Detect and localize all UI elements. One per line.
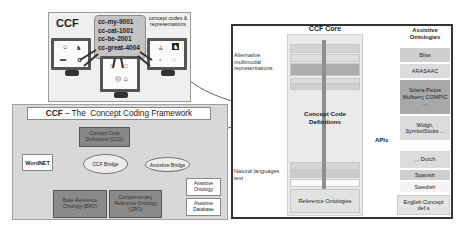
alt-representations-label: Alternative multimodal representations <box>234 52 286 72</box>
assistive-ontology-box: Assistive Ontology <box>186 178 221 196</box>
framework-title-text: – The Concept Coding Framework <box>63 109 193 118</box>
framework-title-acronym: CCF <box>46 109 63 118</box>
ontology-arasaac: ARASAAC <box>400 64 450 79</box>
wordnet-box: WordNET <box>22 154 53 171</box>
reference-ontologies-box: Reference Ontologies <box>290 189 360 213</box>
ccd-box: Concept Code Definitions (CCD) <box>79 127 130 147</box>
cro-box: Complementary Reference Ontology (CRO) <box>109 190 162 218</box>
assistive-database-box: Assistive Database <box>186 198 221 216</box>
language-dutch: ... Dutch <box>400 151 450 169</box>
language-swedish: Swedish <box>400 182 450 193</box>
framework-title: CCF – The Concept Coding Framework <box>27 107 211 120</box>
natural-languages-label: Natural languages text <box>234 168 284 181</box>
ontology-bliss: Bliss <box>400 48 450 63</box>
language-english-concept-defs: English Concept def.s <box>397 195 450 215</box>
language-spanish: Spanish <box>400 170 450 181</box>
bro-box: Base Reference Ontology (BRO) <box>53 190 107 218</box>
concept-code-definitions-label: Concept Code Definitions <box>300 110 350 125</box>
ontology-widgit-symbolsticks: Widgit, SymbolSticks ... <box>400 116 450 141</box>
assistive-ontologies-title: Assistive Ontologies <box>400 27 450 41</box>
ccf-core-title: CCF Core <box>287 25 363 32</box>
assistive-bridge-ellipse: Assistive Bridge <box>145 157 190 172</box>
apis-label: APIs <box>375 137 388 143</box>
ontology-sclera-mulberry-compic: Sclera Pictos Mulberry COMPIC ... <box>400 80 450 115</box>
ccf-bridge-ellipse: CCF Bridge <box>83 154 128 174</box>
